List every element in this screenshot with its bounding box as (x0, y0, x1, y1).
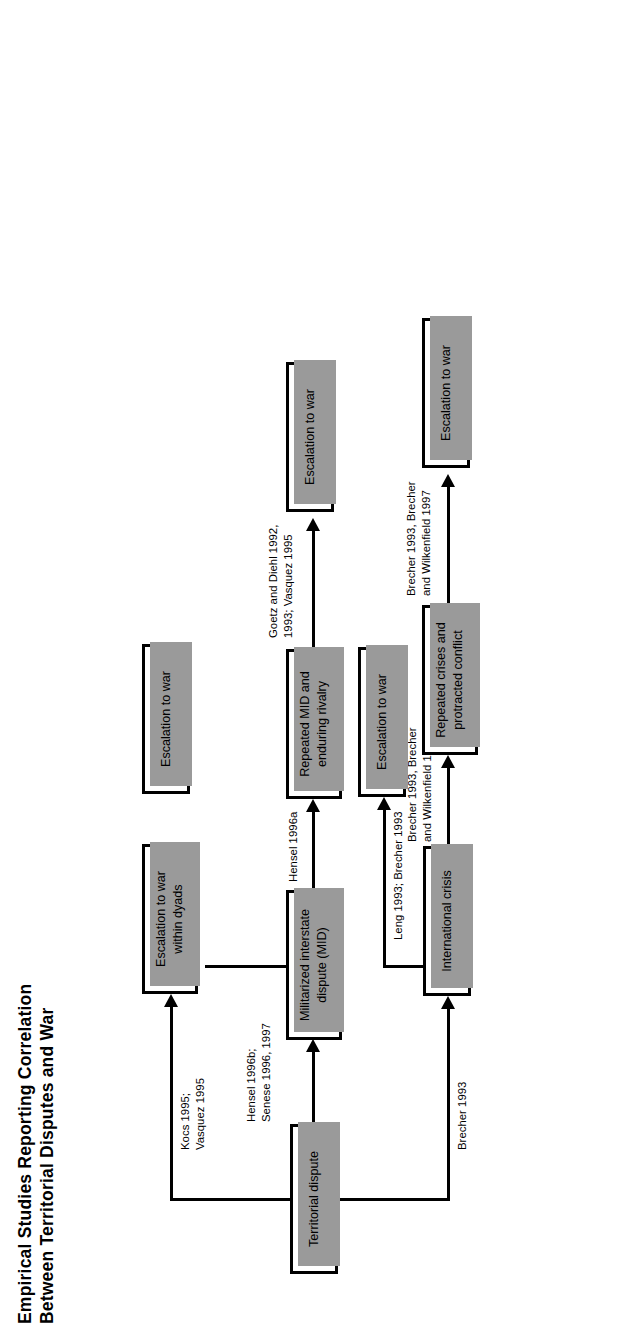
node-escalation-within-dyads-line-1: Escalation to war (153, 871, 170, 967)
node-escalation-within-dyads-line-2: within dyads (170, 884, 187, 953)
connector-mid-to-repeated-mid (312, 810, 315, 890)
node-repeated-crises-protracted-conflict[interactable]: Repeated crises and protracted conflict (422, 605, 478, 755)
edge-label-kocs-vasquez: Kocs 1995; Vasquez 1995 (178, 1076, 207, 1152)
node-mid-line-1: Militarized interstate (297, 909, 314, 1021)
edge-label-brecher-wilkenfeld-b-line-1: Brecher 1993, Brecher (404, 481, 419, 596)
page-canvas: Empirical Studies Reporting Correlation … (0, 0, 640, 1340)
node-repeated-crises-line-2: protracted conflict (450, 630, 467, 729)
node-escalation-to-war-from-repeated-mid-label: Escalation to war (302, 389, 319, 485)
figure-title: Empirical Studies Reporting Correlation … (14, 984, 59, 1324)
node-escalation-to-war-middle[interactable]: Escalation to war (358, 647, 406, 797)
arrowhead-to-repeated-crises (441, 755, 455, 768)
arrowhead-to-escalation-within-dyads (164, 994, 178, 1007)
node-escalation-to-war-from-repeated-mid[interactable]: Escalation to war (286, 362, 334, 512)
edge-label-leng-brecher: Leng 1993; Brecher 1993 (391, 809, 406, 942)
node-international-crisis-label: International crisis (439, 870, 456, 972)
edge-label-goetz-diehl-line-2: 1993; Vasquez 1995 (281, 525, 296, 638)
edge-label-goetz-diehl: Goetz and Diehl 1992, 1993; Vasquez 1995 (266, 523, 295, 640)
edge-label-brecher-1993: Brecher 1993 (455, 1080, 470, 1152)
edge-label-hensel-1996a-text: Hensel 1996a (286, 812, 301, 882)
edge-label-hensel-senese-line-1: Hensel 1996b; (244, 1023, 259, 1122)
edge-label-kocs-vasquez-line-2: Vasquez 1995 (193, 1078, 208, 1150)
node-escalation-to-war-middle-label: Escalation to war (374, 674, 391, 770)
node-escalation-to-war-top[interactable]: Escalation to war (142, 644, 190, 794)
node-repeated-mid-line-2: enduring rivalry (314, 681, 331, 767)
node-repeated-mid-line-1: Repeated MID and (297, 671, 314, 777)
node-escalation-to-war-within-dyads[interactable]: Escalation to war within dyads (142, 844, 198, 994)
node-escalation-to-war-bottom-label: Escalation to war (438, 345, 455, 441)
connector-crisis-escalation-branch (383, 808, 386, 968)
node-territorial-dispute-label: Territorial dispute (306, 1151, 323, 1247)
node-escalation-to-war-bottom[interactable]: Escalation to war (422, 318, 470, 468)
edge-label-kocs-vasquez-line-1: Kocs 1995; (178, 1078, 193, 1150)
arrowhead-to-escalation-war-mid (377, 797, 391, 810)
arrowhead-to-escalation-from-repeated-mid (306, 518, 320, 531)
connector-td-to-crisis-vertical (338, 1198, 450, 1201)
edge-label-goetz-diehl-line-1: Goetz and Diehl 1992, (266, 525, 281, 638)
edge-label-hensel-senese-line-2: Senese 1996, 1997 (259, 1023, 274, 1122)
figure-title-line-1: Empirical Studies Reporting Correlation (14, 984, 36, 1324)
arrowhead-to-international-crisis (441, 996, 455, 1009)
node-escalation-to-war-top-label: Escalation to war (158, 671, 175, 767)
connector-repeated-mid-to-escalation (312, 529, 315, 649)
arrowhead-to-repeated-mid (306, 799, 320, 812)
node-repeated-mid-enduring-rivalry[interactable]: Repeated MID and enduring rivalry (286, 649, 342, 799)
node-repeated-crises-line-1: Repeated crises and (433, 622, 450, 738)
flowchart-figure: Empirical Studies Reporting Correlation … (0, 0, 640, 1340)
node-militarized-interstate-dispute[interactable]: Militarized interstate dispute (MID) (286, 890, 342, 1040)
connector-td-to-mid (312, 1050, 315, 1124)
edge-label-brecher-1993-text: Brecher 1993 (455, 1082, 470, 1150)
arrowhead-to-mid (306, 1039, 320, 1052)
connector-kocs-horizontal (170, 1005, 173, 1201)
node-international-crisis[interactable]: International crisis (423, 846, 471, 996)
edge-label-brecher-wilkenfeld-b: Brecher 1993, Brecher and Wilkenfield 19… (404, 479, 433, 598)
edge-label-leng-brecher-text: Leng 1993; Brecher 1993 (391, 811, 406, 940)
connector-brecher-horizontal (447, 1007, 450, 1201)
figure-title-line-2: Between Territorial Disputes and War (36, 984, 58, 1324)
edge-label-hensel-senese: Hensel 1996b; Senese 1996, 1997 (244, 1021, 273, 1124)
connector-mid-to-escalation-top-vertical (205, 965, 287, 968)
edge-label-hensel-1996a: Hensel 1996a (286, 810, 301, 884)
node-mid-line-2: dispute (MID) (314, 927, 331, 1003)
connector-crisis-to-repeated-crises (447, 766, 450, 846)
connector-td-to-kocs-vertical (170, 1198, 292, 1201)
connector-repeated-crises-to-escalation (447, 485, 450, 605)
edge-label-brecher-wilkenfeld-b-line-2: and Wilkenfield 1997 (419, 481, 434, 596)
node-territorial-dispute[interactable]: Territorial dispute (290, 1124, 338, 1274)
arrowhead-to-escalation-from-repeated-crises (441, 474, 455, 487)
